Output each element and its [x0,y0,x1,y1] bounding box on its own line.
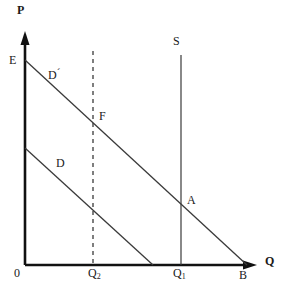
point-label-b: B [239,269,247,281]
tick-label-q2: Q2 [88,267,101,279]
diagram-canvas [0,0,289,296]
tick-label-q2-base: Q [88,266,97,280]
point-label-f: F [99,110,106,122]
demand-curve-label-d-prime-base: D [48,68,57,82]
origin-label: 0 [14,267,20,279]
point-label-e: E [9,54,16,66]
demand-curve-label-d: D [56,157,65,169]
tick-label-q1-base: Q [173,266,182,280]
demand-curve-label-d-prime: D´ [48,69,60,81]
tick-label-q2-sub: 2 [97,272,101,281]
tick-label-q1-sub: 1 [182,272,186,281]
tick-label-q1: Q1 [173,267,186,279]
supply-curve-label-s: S [173,35,180,47]
price-axis-label: P [17,4,24,16]
demand-curve-label-d-prime-mark: ´ [57,66,61,78]
supply-demand-diagram: P Q 0 E F A B S D´ D Q2 Q1 [0,0,289,296]
quantity-axis [25,261,257,270]
point-label-a: A [187,194,196,206]
quantity-axis-label: Q [265,255,274,267]
demand-curve-d [25,148,153,265]
